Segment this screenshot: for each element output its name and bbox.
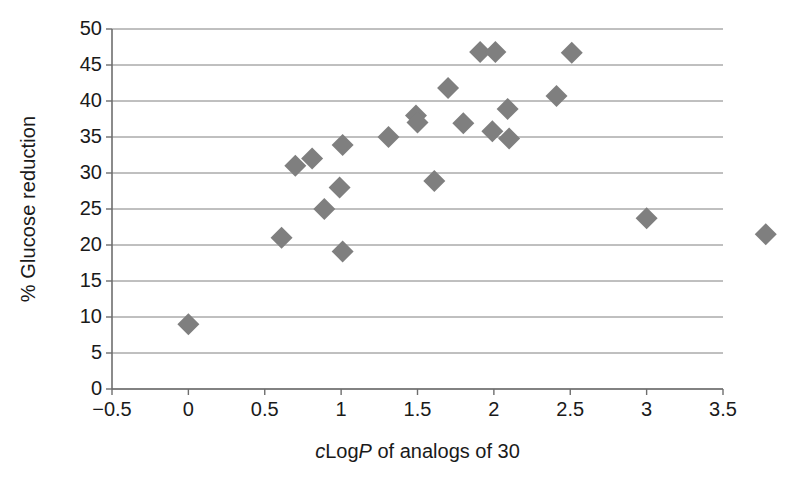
- y-tick-label: 0: [50, 378, 102, 398]
- x-tick-marks: [112, 389, 723, 395]
- x-tick-label: 2: [459, 398, 529, 421]
- x-tick-label: 1.5: [383, 398, 453, 421]
- y-tick-label: 25: [50, 198, 102, 218]
- x-tick-label: 2.5: [535, 398, 605, 421]
- y-tick-label: 5: [50, 342, 102, 362]
- y-tick-label: 40: [50, 90, 102, 110]
- x-tick-label: 1: [306, 398, 376, 421]
- data-point-marker: [332, 240, 354, 262]
- data-point-marker: [313, 198, 335, 220]
- data-point-marker: [561, 42, 583, 64]
- data-point-marker: [755, 223, 777, 245]
- scatter-plot-figure: % Glucose reduction cLogP of analogs of …: [0, 0, 798, 482]
- data-point-marker: [437, 77, 459, 99]
- data-points-group: [177, 41, 776, 335]
- y-tick-label: 35: [50, 126, 102, 146]
- data-point-marker: [636, 207, 658, 229]
- y-tick-label: 45: [50, 54, 102, 74]
- x-tick-label: 3.5: [688, 398, 758, 421]
- data-point-marker: [484, 41, 506, 63]
- gridlines: [112, 29, 723, 389]
- x-tick-label: 0: [153, 398, 223, 421]
- x-tick-label: 3: [612, 398, 682, 421]
- y-tick-label: 50: [50, 18, 102, 38]
- y-tick-label: 15: [50, 270, 102, 290]
- y-tick-marks: [106, 29, 112, 389]
- data-point-marker: [452, 112, 474, 134]
- data-point-marker: [546, 85, 568, 107]
- data-point-marker: [377, 126, 399, 148]
- x-tick-label: 0.5: [230, 398, 300, 421]
- x-tick-label: −0.5: [77, 398, 147, 421]
- y-tick-label: 30: [50, 162, 102, 182]
- y-tick-label: 20: [50, 234, 102, 254]
- y-tick-label: 10: [50, 306, 102, 326]
- data-point-marker: [329, 176, 351, 198]
